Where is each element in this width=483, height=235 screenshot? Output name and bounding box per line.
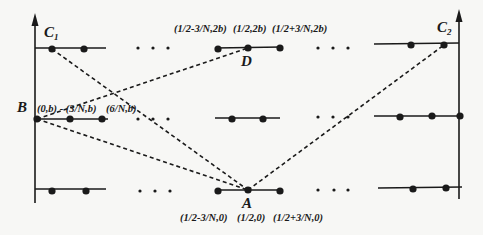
coord-d-right: (1/2+3/N,2b) bbox=[272, 23, 327, 34]
label-c1: C1 bbox=[44, 24, 59, 42]
coord-a-left: (1/2-3/N,0) bbox=[180, 212, 228, 223]
row-middle bbox=[33, 112, 463, 122]
label-a: A bbox=[242, 195, 252, 212]
label-c2: C2 bbox=[437, 19, 452, 37]
coord-a-right: (1/2+3/N,0) bbox=[273, 212, 323, 223]
label-d: D bbox=[241, 53, 252, 70]
label-b: B bbox=[17, 99, 27, 116]
coord-d-left: (1/2-3/N,2b) bbox=[174, 23, 227, 34]
row-top bbox=[35, 41, 459, 52]
coord-d-mid: (1/2,2b) bbox=[233, 23, 267, 34]
coord-b-right: (6/N,b) bbox=[106, 103, 137, 114]
path-b-a bbox=[37, 119, 248, 190]
right-axis-arrow-icon bbox=[456, 9, 463, 22]
coord-a-mid: (1/2,0) bbox=[237, 212, 265, 223]
left-axis-arrow-icon bbox=[32, 13, 39, 26]
coord-b-left: (0,b) - (3/N,b) bbox=[37, 103, 96, 114]
